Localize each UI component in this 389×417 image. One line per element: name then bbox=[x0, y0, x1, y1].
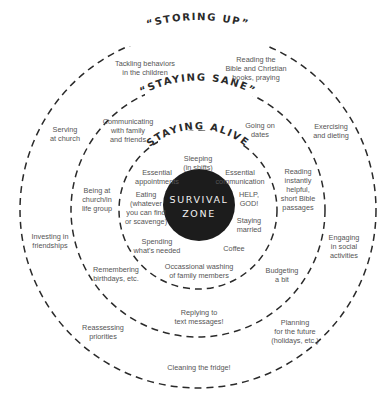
item-communicating: Communicating with family and friends bbox=[103, 117, 154, 144]
item-eating: Eating (whatever you can find or scaveng… bbox=[125, 190, 167, 226]
item-essential-appointments: Essential appointments bbox=[135, 168, 179, 186]
item-help-god: HELP, GOD! bbox=[239, 190, 259, 208]
item-investing-friendships: Investing in friendships bbox=[32, 232, 69, 250]
item-occasional-washing: Occassional washing of family members bbox=[165, 262, 234, 280]
item-reassessing-priorities: Reassessing priorities bbox=[82, 323, 124, 341]
item-being-at-church: Being at church/in life group bbox=[82, 186, 112, 213]
item-essential-communication: Essential communication bbox=[215, 168, 264, 186]
outer-ring-title: “STORING UP” bbox=[145, 11, 251, 30]
item-remembering-birthdays: Remembering birthdays, etc. bbox=[93, 265, 139, 283]
item-serving-at-church: Serving at church bbox=[50, 125, 80, 143]
item-budgeting: Budgeting a bit bbox=[266, 266, 299, 284]
item-reading-bible-books: Reading the Bible and Christian books, p… bbox=[225, 55, 286, 82]
item-going-on-dates: Going on dates bbox=[245, 121, 275, 139]
survival-zone-diagram: SURVIVAL ZONE “STORING UP” “STAYING SANE… bbox=[0, 0, 389, 417]
item-tackling-behaviors: Tackling behaviors in the children bbox=[115, 59, 175, 77]
core-label-line1: SURVIVAL bbox=[170, 194, 229, 205]
rings-graphic: SURVIVAL ZONE “STORING UP” “STAYING SANE… bbox=[0, 0, 389, 417]
item-coffee: Coffee bbox=[223, 244, 244, 253]
item-staying-married: Staying married bbox=[237, 216, 262, 234]
core-label-line2: ZONE bbox=[182, 208, 216, 219]
item-sleeping: Sleeping (in shifts) bbox=[183, 154, 213, 172]
item-spending: Spending what's needed bbox=[134, 237, 181, 255]
item-replying-texts: Replying to text messages! bbox=[174, 308, 223, 326]
item-cleaning-fridge: Cleaning the fridge! bbox=[167, 363, 230, 372]
item-exercising: Exercising and dieting bbox=[313, 122, 349, 140]
item-engaging-social: Engaging in social activities bbox=[329, 233, 360, 260]
item-reading-bible-passages: Reading instantly helpful, short Bible p… bbox=[281, 167, 315, 212]
item-planning-future: Planning for the future (holidays, etc.) bbox=[271, 318, 318, 345]
